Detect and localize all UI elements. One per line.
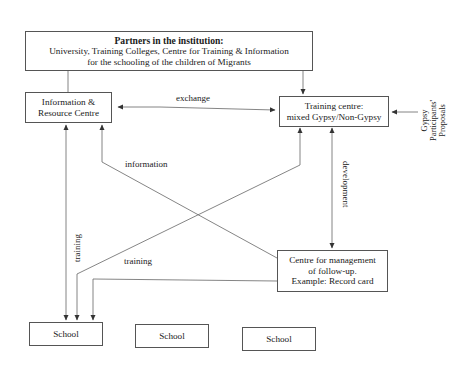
school-label: School: [159, 331, 185, 342]
school-label: School: [53, 329, 79, 340]
training-centre-line1: Training centre:: [305, 101, 364, 112]
exchange-label: exchange: [176, 93, 210, 103]
info-centre-line2: Resource Centre: [38, 108, 99, 119]
partners-box: Partners in the institution: University,…: [25, 31, 313, 71]
management-line1: Centre for management: [289, 255, 376, 266]
proposals-line3: Proposals: [439, 100, 448, 141]
training-centre-line2: mixed Gypsy/Non-Gypsy: [287, 112, 382, 123]
training-centre-box: Training centre: mixed Gypsy/Non-Gypsy: [279, 96, 389, 127]
partners-line1: University, Training Colleges, Centre fo…: [49, 46, 289, 57]
school-label: School: [266, 334, 292, 345]
management-line2: of follow-up.: [308, 266, 356, 277]
development-label: development: [341, 161, 351, 208]
school-box-3: School: [242, 327, 316, 351]
information-label: information: [125, 159, 168, 169]
management-line3: Example: Record card: [291, 276, 373, 287]
info-centre-line1: Information &: [42, 97, 95, 108]
school-box-2: School: [135, 324, 209, 348]
partners-line2: for the schooling of the children of Mig…: [87, 57, 251, 68]
training-vertical-label: training: [72, 234, 82, 262]
training-diagonal-label: training: [124, 256, 152, 266]
gypsy-proposals-label: Gypsy Participants' Proposals: [421, 100, 447, 141]
management-centre-box: Centre for management of follow-up. Exam…: [277, 250, 388, 292]
partners-title: Partners in the institution:: [115, 35, 224, 46]
info-resource-centre-box: Information & Resource Centre: [25, 92, 112, 123]
school-box-1: School: [29, 322, 103, 346]
